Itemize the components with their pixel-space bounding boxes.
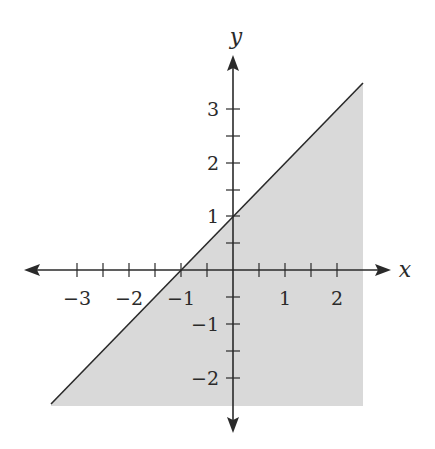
- y-tick-label: 2: [207, 152, 219, 174]
- y-tick-label: 3: [207, 98, 219, 120]
- y-axis-label: y: [229, 24, 243, 49]
- x-tick-label: −2: [115, 287, 143, 309]
- y-tick-label: 1: [207, 205, 219, 227]
- y-tick-label: −1: [191, 313, 219, 335]
- x-tick-label: 1: [279, 287, 291, 309]
- x-tick-label: 2: [331, 287, 343, 309]
- y-tick-label: −2: [191, 367, 219, 389]
- x-axis-label: x: [399, 257, 412, 282]
- x-tick-label: −3: [63, 287, 91, 309]
- inequality-graph: x y −3 −2 −1 1 2 3 2 1 −1 −2: [0, 0, 435, 449]
- x-tick-label: −1: [167, 287, 195, 309]
